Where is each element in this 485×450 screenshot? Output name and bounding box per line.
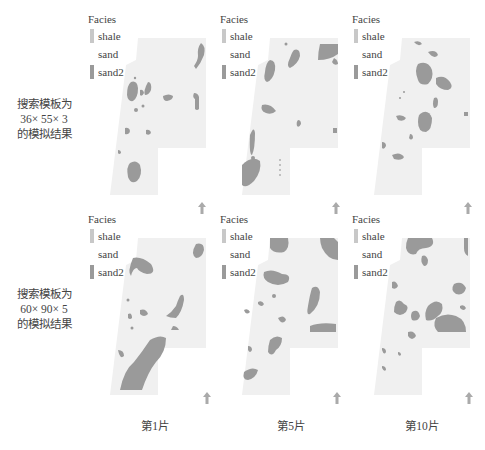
north-arrow-icon: [203, 390, 211, 402]
facies-map: [220, 210, 345, 410]
map-panel-row1-slice10: Facies shale sand sand2: [352, 10, 477, 210]
map-panel-row2-slice1: Facies shale sand sand2: [88, 210, 213, 410]
row-label-line: 的模拟结果: [0, 317, 88, 332]
facies-map: [88, 10, 213, 210]
facies-map: [88, 210, 213, 410]
facies-map: [352, 210, 477, 410]
map-panel-row2-slice5: Facies shale sand sand2: [220, 210, 345, 410]
facies-map: [220, 10, 345, 210]
facies-map: [352, 10, 477, 210]
column-label-slice1: 第1片: [125, 417, 185, 433]
map-panel-row1-slice1: Facies shale sand sand2: [88, 10, 213, 210]
column-label-slice10: 第10片: [392, 417, 452, 433]
map-panel-row2-slice10: Facies shale sand sand2: [352, 210, 477, 410]
row-label-line: 的模拟结果: [0, 127, 88, 142]
row-label-template-60x90x5: 搜索模板为 60× 90× 5 的模拟结果: [0, 287, 88, 332]
row-label-line: 搜索模板为: [0, 287, 88, 302]
column-label-slice5: 第5片: [261, 417, 321, 433]
map-panel-row1-slice5: Facies shale sand sand2: [220, 10, 345, 210]
row-label-line: 36× 55× 3: [0, 112, 88, 127]
row-label-line: 60× 90× 5: [0, 302, 88, 317]
north-arrow-icon: [465, 390, 473, 402]
row-label-line: 搜索模板为: [0, 97, 88, 112]
row-label-template-36x55x3: 搜索模板为 36× 55× 3 的模拟结果: [0, 97, 88, 142]
north-arrow-icon: [333, 390, 341, 402]
